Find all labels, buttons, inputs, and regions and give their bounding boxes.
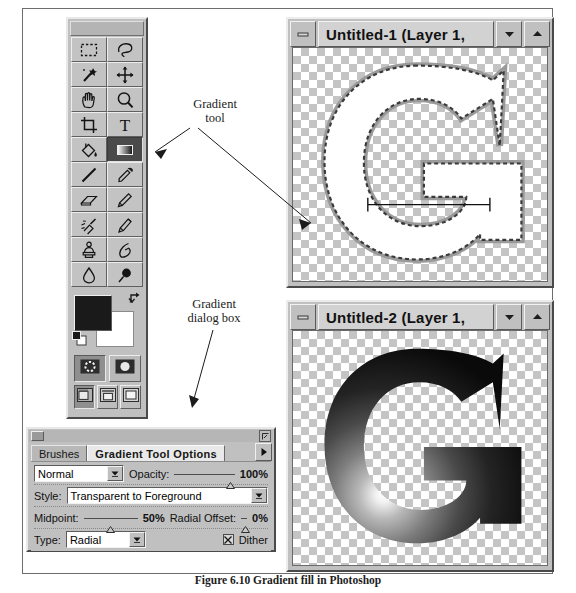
line-icon — [79, 165, 99, 185]
type-dither-row: Type: Radial Dither — [34, 530, 268, 549]
mask-mode-row — [74, 355, 141, 382]
pencil-tool[interactable] — [107, 187, 143, 212]
canvas-untitled-1[interactable] — [292, 47, 548, 282]
dropdown-arrow-icon[interactable] — [107, 466, 123, 481]
smudge-tool[interactable] — [107, 237, 143, 262]
screen-mode-row — [74, 385, 141, 409]
dropdown-arrow-icon[interactable] — [251, 488, 267, 503]
chevron-up-icon[interactable] — [524, 21, 550, 47]
standard-mode[interactable] — [74, 355, 106, 382]
foreground-color-swatch[interactable] — [74, 295, 112, 331]
chevron-down-icon[interactable] — [496, 21, 522, 47]
marquee-tool[interactable] — [71, 37, 107, 62]
style-row: Style: Transparent to Foreground — [34, 486, 268, 505]
paintbrush-tool[interactable] — [107, 212, 143, 237]
image-window-untitled-1: Untitled-1 (Layer 1, — [286, 17, 554, 288]
chevron-down-icon[interactable] — [496, 304, 522, 330]
move-icon — [115, 65, 135, 85]
zoom-tool[interactable] — [107, 87, 143, 112]
magic-wand-tool[interactable] — [71, 62, 107, 87]
airbrush-tool[interactable] — [71, 212, 107, 237]
palette-tabs: Brushes Gradient Tool Options — [31, 443, 272, 461]
airbrush-icon — [79, 215, 99, 235]
lasso-tool[interactable] — [107, 37, 143, 62]
move-tool[interactable] — [107, 62, 143, 87]
rubber-stamp-icon — [79, 240, 99, 260]
style-value: Transparent to Foreground — [68, 488, 251, 503]
callout-line-2: tool — [166, 111, 264, 125]
type-value: Radial — [67, 532, 129, 547]
hand-tool[interactable] — [71, 87, 107, 112]
dropdown-arrow-icon[interactable] — [129, 532, 145, 547]
minimize-button[interactable] — [290, 304, 316, 330]
gradient-tool-options-palette: Brushes Gradient Tool Options Normal Opa… — [26, 427, 276, 552]
blend-mode-select[interactable]: Normal — [34, 465, 124, 482]
type-select[interactable]: Radial — [66, 531, 146, 548]
opacity-slider-thumb[interactable] — [226, 475, 235, 482]
image-window-untitled-2: Untitled-2 (Layer 1, — [286, 300, 554, 572]
magnifier-icon — [115, 90, 135, 110]
default-colors-icon[interactable] — [72, 331, 87, 346]
swap-colors-icon[interactable] — [128, 291, 142, 305]
svg-text:T: T — [120, 116, 131, 135]
opacity-slider[interactable] — [174, 466, 235, 482]
chevron-up-icon[interactable] — [524, 304, 550, 330]
midpoint-slider[interactable] — [84, 510, 138, 526]
line-tool[interactable] — [71, 162, 107, 187]
divider — [34, 528, 268, 529]
gradient-tool[interactable] — [107, 137, 143, 162]
window-title: Untitled-2 (Layer 1, — [318, 304, 494, 330]
lasso-icon — [115, 40, 135, 60]
window-titlebar: Untitled-2 (Layer 1, — [288, 302, 552, 332]
style-label: Style: — [34, 490, 62, 502]
callout-line-1: Gradient — [166, 97, 264, 111]
tab-gradient-tool-options[interactable]: Gradient Tool Options — [87, 445, 225, 461]
close-box-icon[interactable] — [31, 431, 44, 441]
letter-g-selection — [293, 48, 547, 281]
hand-icon — [79, 90, 99, 110]
dodge-burn-icon — [115, 265, 135, 285]
tab-brushes[interactable]: Brushes — [31, 445, 87, 461]
callout-gradient-dialog: Gradient dialog box — [160, 297, 268, 325]
minimize-button[interactable] — [290, 21, 316, 47]
smudge-icon — [115, 240, 135, 260]
radial-offset-label: Radial Offset: — [170, 512, 236, 524]
radial-offset-slider[interactable] — [241, 510, 247, 526]
midpoint-offset-row: Midpoint: 50% Radial Offset: 0% — [34, 508, 268, 527]
blend-mode-row: Normal Opacity: 100% — [34, 464, 268, 483]
screen-standard-icon — [77, 388, 93, 406]
midpoint-slider-thumb[interactable] — [106, 519, 115, 526]
figure-page: T — [0, 0, 576, 593]
full-screen-menubar[interactable] — [97, 385, 118, 409]
eyedropper-tool[interactable] — [107, 162, 143, 187]
callout-line-1: Gradient — [160, 297, 268, 311]
canvas-untitled-2[interactable] — [292, 330, 548, 566]
blur-tool[interactable] — [71, 262, 107, 287]
window-titlebar: Untitled-1 (Layer 1, — [288, 19, 552, 49]
style-select[interactable]: Transparent to Foreground — [67, 487, 268, 504]
eraser-icon — [79, 190, 99, 210]
waterdrop-icon — [79, 265, 99, 285]
radial-offset-value: 0% — [252, 512, 268, 524]
crop-tool[interactable] — [71, 112, 107, 137]
magic-wand-icon — [79, 65, 99, 85]
palette-body: Normal Opacity: 100% Style: — [31, 461, 271, 551]
eraser-tool[interactable] — [71, 187, 107, 212]
dither-checkbox[interactable] — [223, 534, 234, 545]
type-tool[interactable]: T — [107, 112, 143, 137]
color-swatches — [74, 293, 141, 353]
standard-screen-mode[interactable] — [74, 385, 95, 409]
paint-bucket-tool[interactable] — [71, 137, 107, 162]
toolbox-titlebar[interactable] — [70, 21, 144, 36]
eyedropper-icon — [115, 165, 135, 185]
midpoint-label: Midpoint: — [34, 512, 79, 524]
dodge-burn-tool[interactable] — [107, 262, 143, 287]
full-screen-mode[interactable] — [120, 385, 141, 409]
gradient-icon — [115, 140, 135, 160]
palette-menu-icon[interactable] — [259, 430, 271, 442]
palette-titlebar — [29, 430, 273, 442]
triangle-right-icon[interactable] — [255, 443, 272, 461]
rubber-stamp-tool[interactable] — [71, 237, 107, 262]
quick-mask-mode[interactable] — [109, 355, 141, 382]
radial-offset-slider-thumb[interactable] — [241, 519, 250, 526]
